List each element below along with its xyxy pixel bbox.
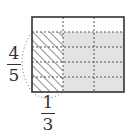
numerator: 4 [9,45,20,62]
fraction-label-one-third: 1 3 [41,94,55,132]
denominator: 3 [43,116,54,132]
vertical-brace-arc [22,32,32,92]
denominator: 5 [9,67,20,84]
numerator: 1 [43,94,54,111]
fraction-label-four-fifths: 4 5 [7,45,21,84]
